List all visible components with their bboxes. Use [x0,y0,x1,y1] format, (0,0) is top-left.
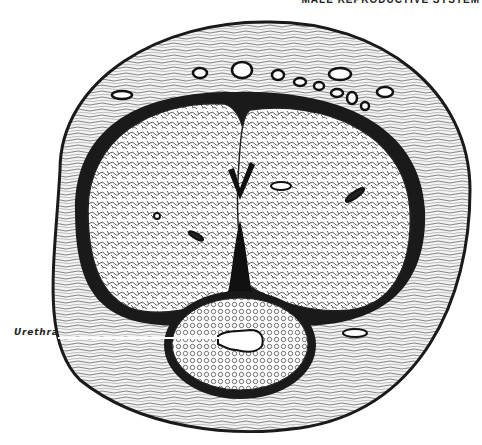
penis-cross-section-illustration [0,0,482,445]
corpus-spongiosum [164,291,316,399]
urethra-label: Urethra [14,327,59,337]
